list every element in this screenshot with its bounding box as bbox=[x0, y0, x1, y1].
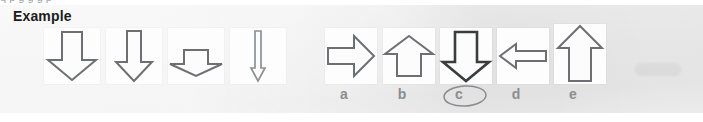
answer-option-a-tile[interactable] bbox=[325, 28, 377, 84]
clipped-text-glyphs: q p g g g p bbox=[0, 0, 52, 3]
arrow-needle-thin-tile bbox=[230, 28, 286, 84]
answer-option-c-tile[interactable] bbox=[440, 28, 492, 84]
arrow-narrow-tall-shaft-tile bbox=[106, 28, 162, 84]
answer-option-label-d[interactable]: d bbox=[503, 86, 529, 102]
answer-option-label-b[interactable]: b bbox=[389, 86, 415, 102]
answer-option-b-tile[interactable] bbox=[383, 28, 435, 84]
arrow-wide-head-short-shaft-tile bbox=[44, 28, 100, 84]
answer-option-label-e[interactable]: e bbox=[560, 86, 586, 102]
page-title: Example bbox=[13, 8, 72, 24]
arrow-flat-wide-short-tile bbox=[168, 28, 224, 84]
worksheet-scan: q p g g g p Example abcde bbox=[0, 0, 703, 122]
answer-option-d-tile[interactable] bbox=[497, 28, 549, 84]
answer-option-e-tile[interactable] bbox=[554, 24, 606, 84]
scan-smudge bbox=[635, 63, 681, 76]
answer-option-label-c[interactable]: c bbox=[446, 86, 472, 102]
answer-option-label-a[interactable]: a bbox=[331, 86, 357, 102]
